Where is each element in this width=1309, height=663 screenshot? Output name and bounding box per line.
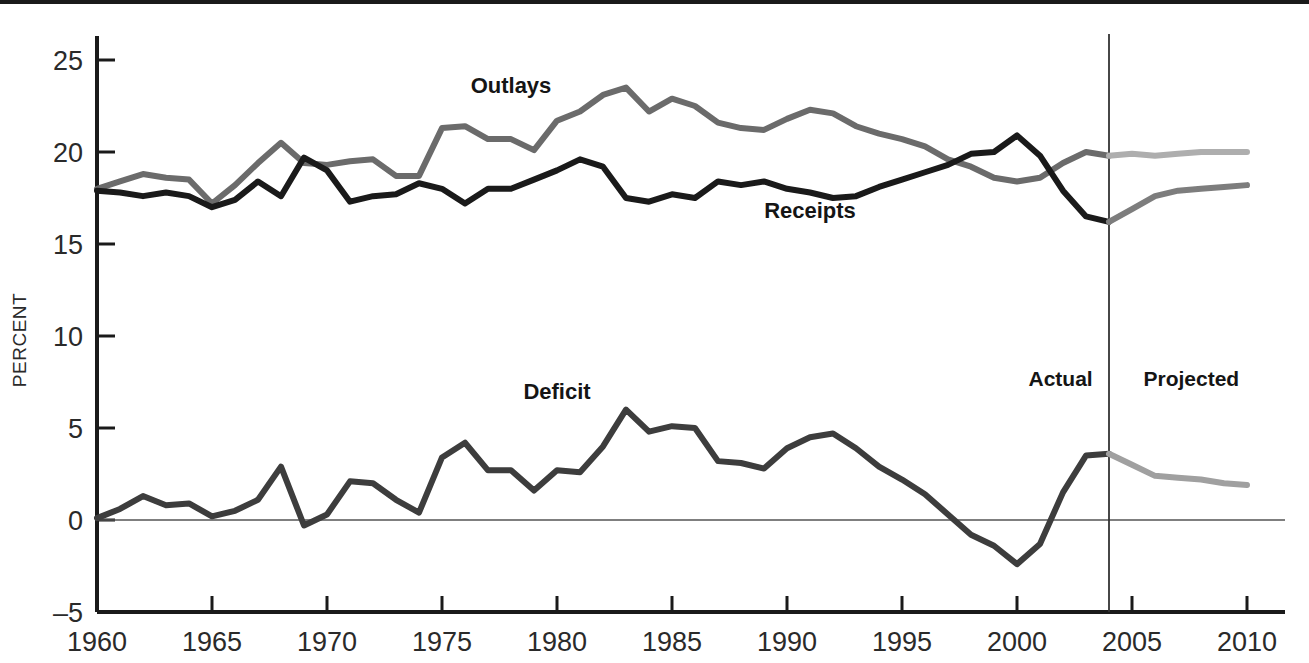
x-axis-tick-label: 1960	[67, 627, 127, 657]
annotation-projected: Projected	[1144, 367, 1240, 390]
annotation-actual: Actual	[1029, 367, 1093, 390]
y-axis-tick-label: 0	[68, 506, 83, 536]
y-axis-tick-label: 15	[53, 230, 83, 260]
series-line-projected-outlays	[1109, 152, 1247, 156]
y-axis-tick-label: 5	[68, 414, 83, 444]
x-axis-tick-label: 2005	[1102, 627, 1162, 657]
series-line-actual-deficit	[97, 410, 1109, 565]
x-axis-tick-label: 1985	[642, 627, 702, 657]
x-axis-tick-label: 1965	[182, 627, 242, 657]
axis-layer: 2520151050–51960196519701975198019851990…	[9, 34, 1285, 657]
y-axis-tick-label: –5	[53, 598, 83, 628]
y-axis-tick-label: 10	[53, 322, 83, 352]
x-axis-tick-label: 1975	[412, 627, 472, 657]
series-line-projected-receipts	[1109, 185, 1247, 222]
x-axis-tick-label: 2000	[987, 627, 1047, 657]
budget-chart: 2520151050–51960196519701975198019851990…	[0, 0, 1309, 663]
y-axis-tick-label: 20	[53, 138, 83, 168]
annotation-receipts: Receipts	[764, 198, 856, 223]
chart-page: 2520151050–51960196519701975198019851990…	[0, 0, 1309, 663]
annotation-deficit: Deficit	[523, 379, 591, 404]
x-axis-tick-label: 1990	[757, 627, 817, 657]
x-axis-tick-label: 1995	[872, 627, 932, 657]
series-line-projected-deficit	[1109, 454, 1247, 485]
x-axis-tick-label: 1970	[297, 627, 357, 657]
x-axis-tick-label: 2010	[1217, 627, 1277, 657]
y-axis-title: PERCENT	[9, 293, 30, 387]
y-axis-tick-label: 25	[53, 46, 83, 76]
x-axis-tick-label: 1980	[527, 627, 587, 657]
series-layer	[97, 88, 1247, 565]
series-line-actual-receipts	[97, 135, 1109, 221]
annotation-outlays: Outlays	[471, 73, 552, 98]
